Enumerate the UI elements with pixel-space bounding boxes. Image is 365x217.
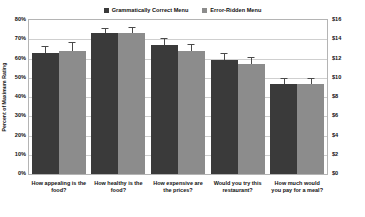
x-axis-category-label: How appealing is the food? bbox=[29, 180, 89, 210]
bar[interactable] bbox=[297, 84, 324, 174]
error-bar-line bbox=[45, 46, 46, 53]
bar-wrapper bbox=[211, 20, 238, 174]
bar-wrapper bbox=[91, 20, 118, 174]
bar-wrapper bbox=[297, 20, 324, 174]
bar-wrapper bbox=[178, 20, 205, 174]
legend-label: Grammatically Correct Menu bbox=[112, 7, 189, 13]
bar[interactable] bbox=[59, 51, 86, 174]
error-bar-cap bbox=[161, 38, 168, 39]
error-bar-line bbox=[132, 27, 133, 34]
error-bar-cap bbox=[128, 27, 135, 28]
y-axis-right-tick-label: $2 bbox=[332, 151, 338, 157]
chart-legend: Grammatically Correct Menu Error-Ridden … bbox=[0, 4, 365, 16]
legend-entry-error-ridden-menu: Error-Ridden Menu bbox=[202, 7, 261, 13]
bar[interactable] bbox=[211, 60, 238, 174]
error-bar-cap bbox=[280, 78, 287, 79]
y-axis-left-tick-label: 10% bbox=[15, 151, 26, 157]
error-bar-line bbox=[72, 42, 73, 51]
bar-group bbox=[148, 20, 208, 174]
bar[interactable] bbox=[118, 33, 145, 174]
y-axis-right-tick-label: $0 bbox=[332, 170, 338, 176]
bar-wrapper bbox=[151, 20, 178, 174]
y-axis-left-tick-label: 0% bbox=[18, 170, 26, 176]
y-axis-left-tick-label: 40% bbox=[15, 93, 26, 99]
bar[interactable] bbox=[238, 64, 265, 174]
y-axis-left-tick-label: 70% bbox=[15, 35, 26, 41]
error-bar-line bbox=[191, 44, 192, 51]
legend-swatch-icon bbox=[104, 8, 109, 13]
y-axis-right-tick-label: $8 bbox=[332, 93, 338, 99]
error-bar-cap bbox=[188, 44, 195, 45]
x-axis-category-labels: How appealing is the food?How healthy is… bbox=[29, 180, 327, 210]
legend-entry-grammatically-correct-menu: Grammatically Correct Menu bbox=[104, 7, 189, 13]
y-axis-right-tick-label: $6 bbox=[332, 112, 338, 118]
error-bar-cap bbox=[221, 53, 228, 54]
bar[interactable] bbox=[270, 84, 297, 174]
bar[interactable] bbox=[151, 45, 178, 174]
error-bar-cap bbox=[101, 28, 108, 29]
x-axis-category-label: Would you try this restaurant? bbox=[208, 180, 268, 210]
error-bar-cap bbox=[248, 57, 255, 58]
bar-group bbox=[89, 20, 149, 174]
bar-wrapper bbox=[32, 20, 59, 174]
bar-wrapper bbox=[270, 20, 297, 174]
error-bar-cap bbox=[69, 42, 76, 43]
x-axis-category-label: How expensive are the prices? bbox=[148, 180, 208, 210]
error-bar-cap bbox=[307, 78, 314, 79]
error-bar-line bbox=[164, 38, 165, 45]
y-axis-title: Percent of Maximum Rating bbox=[0, 19, 9, 175]
y-axis-left-tick-label: 30% bbox=[15, 112, 26, 118]
y-axis-right-tick-label: $10 bbox=[332, 74, 341, 80]
bar-wrapper bbox=[59, 20, 86, 174]
bar-wrapper bbox=[238, 20, 265, 174]
y-axis-left-tick-label: 20% bbox=[15, 132, 26, 138]
y-axis-left-tick-label: 50% bbox=[15, 74, 26, 80]
bar-group bbox=[29, 20, 89, 174]
y-axis-right-tick-label: $16 bbox=[332, 16, 341, 22]
error-bar-line bbox=[224, 53, 225, 61]
error-bar-cap bbox=[42, 46, 49, 47]
y-axis-left-tick-label: 80% bbox=[15, 16, 26, 22]
x-axis-category-label: How much would you pay for a meal? bbox=[267, 180, 327, 210]
bar-wrapper bbox=[118, 20, 145, 174]
error-bar-line bbox=[251, 57, 252, 65]
legend-swatch-icon bbox=[202, 8, 207, 13]
y-axis-right-tick-label: $14 bbox=[332, 35, 341, 41]
legend-label: Error-Ridden Menu bbox=[210, 7, 261, 13]
bar[interactable] bbox=[91, 33, 118, 174]
bars-layer bbox=[29, 20, 327, 174]
y-axis-right-tick-label: $12 bbox=[332, 55, 341, 61]
bar-group bbox=[208, 20, 268, 174]
y-axis-title-text: Percent of Maximum Rating bbox=[1, 63, 7, 132]
bar[interactable] bbox=[32, 53, 59, 174]
y-axis-left-tick-label: 60% bbox=[15, 55, 26, 61]
x-axis-category-label: How healthy is the food? bbox=[89, 180, 149, 210]
bar-group bbox=[267, 20, 327, 174]
bar[interactable] bbox=[178, 51, 205, 174]
y-axis-right-tick-label: $4 bbox=[332, 132, 338, 138]
bar-chart: Grammatically Correct Menu Error-Ridden … bbox=[0, 0, 365, 217]
